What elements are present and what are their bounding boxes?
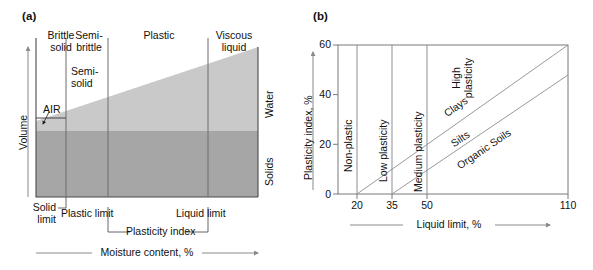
figure-root: (a) xyxy=(0,0,593,270)
x-tick-label-110: 110 xyxy=(554,200,582,212)
moisture-axis-label: Moisture content, % xyxy=(92,247,202,259)
plastic-limit-label: Plastic limit xyxy=(61,208,114,220)
x-tick-label-20: 20 xyxy=(345,200,369,212)
solids-label: Solids xyxy=(264,157,276,186)
solid-limit-label: Solid limit xyxy=(16,202,56,225)
water-label: Water xyxy=(264,90,276,118)
panel-a: (a) xyxy=(0,0,295,270)
volume-axis-label: Volume xyxy=(18,115,30,150)
solids-region xyxy=(36,131,258,197)
plasticity-index-axis-label: Plasticity index, % xyxy=(303,95,315,180)
x-tick-label-50: 50 xyxy=(415,200,439,212)
x-tick-label-35: 35 xyxy=(380,200,404,212)
state-label-viscous-liquid: Viscous liquid xyxy=(208,30,260,53)
liquid-limit-axis-label: Liquid limit, % xyxy=(403,219,495,231)
zone-label-low-plasticity: Low plasticity xyxy=(378,120,390,182)
water-region xyxy=(36,47,258,131)
zone-label-non-plastic: Non-plastic xyxy=(343,119,355,172)
state-label-semi-brittle: Semi- brittle xyxy=(69,30,109,53)
plasticity-index-label: Plasticity index xyxy=(126,226,190,238)
y-tick-label-0: 0 xyxy=(307,189,331,201)
state-label-semi-solid: Semi- solid xyxy=(71,66,98,89)
y-tick-label-60: 60 xyxy=(307,39,331,51)
zone-label-medium-plasticity: Medium plasticity xyxy=(413,111,425,192)
air-label: AIR xyxy=(43,104,61,116)
liquid-limit-label: Liquid limit xyxy=(176,208,226,220)
panel-b: (b) xyxy=(295,0,593,270)
state-label-plastic: Plastic xyxy=(128,30,190,42)
